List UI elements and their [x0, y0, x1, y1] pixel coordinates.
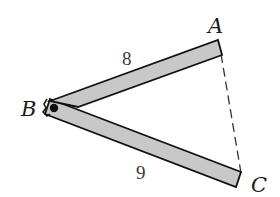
length-label-bc: 9	[136, 162, 146, 183]
vertex-label-b: B	[20, 97, 36, 121]
hinged-bars-diagram: A B C 8 9	[0, 0, 280, 197]
vertex-label-c: C	[251, 173, 267, 197]
pivot-bolt-icon	[50, 104, 58, 112]
dashed-segment-ac	[221, 54, 241, 173]
vertex-label-a: A	[206, 14, 223, 38]
bar-ba	[50, 40, 222, 107]
length-label-ba: 8	[122, 48, 132, 69]
diagram-canvas: A B C 8 9	[0, 0, 280, 197]
